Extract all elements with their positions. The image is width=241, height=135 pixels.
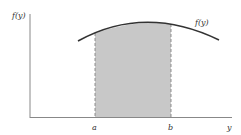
shaded-area [95, 23, 171, 117]
probability-density-figure: f(y) f(y) a b y [0, 0, 241, 135]
y-axis-label: f(y) [11, 11, 26, 20]
bound-a-label: a [92, 123, 97, 132]
curve-label: f(y) [194, 18, 209, 27]
plot-canvas: f(y) f(y) a b y [0, 0, 241, 135]
bound-b-label: b [168, 123, 173, 132]
x-axis-label: y [226, 123, 232, 132]
